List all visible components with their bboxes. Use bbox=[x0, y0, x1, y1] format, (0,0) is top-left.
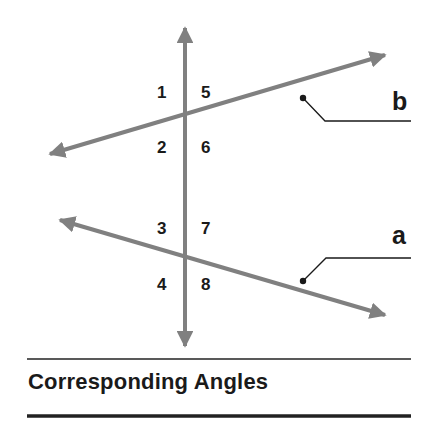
angle-label-4: 4 bbox=[157, 275, 167, 294]
angle-label-5: 5 bbox=[201, 83, 210, 102]
leader-a bbox=[300, 258, 411, 284]
angle-label-8: 8 bbox=[201, 275, 210, 294]
angle-label-6: 6 bbox=[201, 138, 210, 157]
angle-label-1: 1 bbox=[157, 83, 166, 102]
line-label-b: b bbox=[392, 87, 407, 115]
diagram-title: Corresponding Angles bbox=[28, 369, 268, 395]
line-a bbox=[60, 220, 385, 315]
angle-label-2: 2 bbox=[157, 138, 166, 157]
angle-label-7: 7 bbox=[201, 219, 210, 238]
line-label-a: a bbox=[392, 221, 407, 249]
line-b bbox=[50, 55, 385, 154]
angle-label-3: 3 bbox=[157, 219, 166, 238]
